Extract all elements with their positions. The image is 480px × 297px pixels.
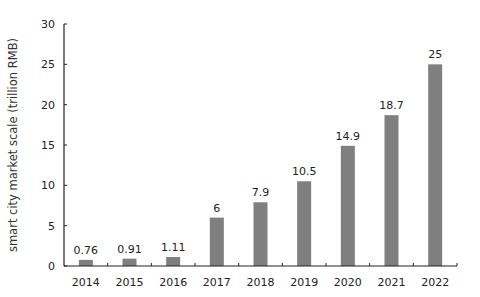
data-label: 25 [428,48,442,61]
x-tick-label: 2018 [247,276,275,289]
bar-chart: 0.7620140.9120151.112016620177.9201810.5… [0,0,480,297]
bar [297,181,311,266]
data-label: 1.11 [161,241,186,254]
bar [79,260,93,266]
y-tick-label: 10 [41,179,55,192]
data-label: 10.5 [292,165,317,178]
bar [428,64,442,266]
x-tick-label: 2022 [421,276,449,289]
data-label: 7.9 [252,186,270,199]
data-label: 0.76 [74,244,99,257]
bar [385,115,399,266]
data-label: 18.7 [379,99,404,112]
y-tick-label: 5 [48,220,55,233]
x-tick-label: 2014 [72,276,100,289]
x-tick-label: 2015 [116,276,144,289]
y-tick-label: 30 [41,18,55,31]
y-axis-label: smart city market scale (trillion RMB) [2,24,24,266]
x-tick-label: 2016 [159,276,187,289]
bar [210,218,224,266]
bar [166,257,180,266]
x-tick-label: 2021 [378,276,406,289]
data-label: 0.91 [117,243,142,256]
y-tick-label: 25 [41,58,55,71]
y-axis-label-text: smart city market scale (trillion RMB) [6,38,20,252]
y-tick-label: 0 [48,260,55,273]
y-tick-label: 15 [41,139,55,152]
data-label: 6 [213,202,220,215]
bar [254,202,268,266]
y-tick-label: 20 [41,99,55,112]
x-tick-label: 2019 [290,276,318,289]
bar [341,146,355,266]
x-tick-label: 2020 [334,276,362,289]
data-label: 14.9 [336,130,361,143]
x-tick-label: 2017 [203,276,231,289]
chart-canvas: 0.7620140.9120151.112016620177.9201810.5… [0,0,480,297]
bar [123,259,137,266]
